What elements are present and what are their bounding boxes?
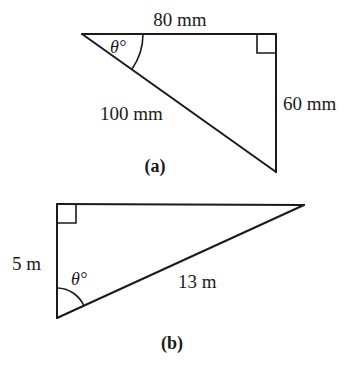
- triangle-b: 5 m θ° 13 m (b): [12, 204, 304, 354]
- right-angle-marker-a: [257, 34, 276, 53]
- label-100mm: 100 mm: [100, 103, 163, 124]
- label-60mm: 60 mm: [283, 93, 337, 114]
- label-13m: 13 m: [178, 271, 217, 292]
- label-80mm: 80 mm: [153, 9, 207, 30]
- label-5m: 5 m: [12, 253, 41, 274]
- caption-a: (a): [145, 156, 166, 177]
- right-angle-marker-b: [57, 204, 76, 223]
- triangle-b-top-side: [57, 204, 304, 205]
- angle-arc-a: [132, 34, 143, 69]
- triangle-b-hypotenuse: [57, 205, 304, 318]
- caption-b: (b): [161, 333, 183, 354]
- triangle-a: 80 mm θ° 100 mm 60 mm (a): [82, 9, 337, 177]
- theta-label-a: θ°: [110, 37, 126, 57]
- angle-arc-b: [57, 288, 84, 306]
- theta-label-b: θ°: [71, 269, 87, 289]
- diagram-canvas: 80 mm θ° 100 mm 60 mm (a) 5 m θ° 13 m (b…: [0, 0, 353, 370]
